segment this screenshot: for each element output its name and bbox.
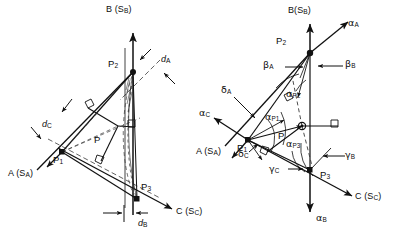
right-vertex-p3 (307, 167, 313, 173)
right-axis-c-label: C (SC) (355, 192, 381, 201)
left-side-p1-p3 (62, 152, 137, 199)
left-axis-c (58, 148, 172, 209)
left-axis-c-label: C (SC) (176, 207, 202, 216)
right-point-p3-label: P3 (320, 170, 330, 180)
left-distance-dc-label: dC (42, 120, 52, 129)
left-da-arrow-2 (164, 73, 175, 84)
left-point-p3-label: P3 (141, 182, 151, 192)
left-vertex-p3 (134, 196, 140, 202)
right-panel-geometry (214, 22, 352, 212)
right-axis-a-label: A (SA) (196, 147, 221, 156)
left-panel-geometry (31, 33, 175, 222)
left-right-angle-c (95, 155, 104, 164)
left-dc-arrow-1 (62, 99, 72, 112)
left-vertex-p1 (59, 149, 65, 155)
right-dashed-p-p2 (292, 76, 302, 126)
left-dc-arrow-2 (31, 127, 41, 139)
right-ray-alpha-c (214, 118, 248, 140)
right-angle-beta-b-label: βB (345, 59, 356, 69)
right-ray-alpha-a (310, 22, 348, 53)
left-point-p-label: P (94, 135, 100, 145)
left-dashed-ray-3 (62, 126, 118, 152)
left-vertex-p2 (130, 69, 136, 75)
left-right-angle-b (128, 120, 135, 127)
right-vertex-p2 (307, 50, 313, 56)
left-right-angle-a (85, 99, 94, 108)
right-angle-alpha-p2-label: αP2 (286, 89, 300, 99)
right-delta-a-leader (234, 97, 255, 118)
right-axis-b-label: B(SB) (288, 6, 311, 15)
right-point-p2-label: P2 (276, 36, 286, 46)
right-vertex-p-core (301, 125, 304, 128)
right-angle-gamma-c-label: γC (269, 164, 279, 174)
left-distance-da-label: dA (161, 55, 171, 64)
left-point-p1-label: P1 (53, 155, 63, 165)
right-angle-beta-a-label: βA (263, 60, 274, 70)
right-angle-alpha-p1-label: αP1 (265, 112, 279, 122)
right-angle-delta-c-label: δC (238, 149, 249, 159)
left-axis-a-label: A (SA) (8, 169, 33, 178)
right-angle-delta-a-label: δA (221, 85, 231, 95)
right-point-p-label: P (278, 131, 284, 141)
left-point-p2-label: P2 (108, 59, 118, 69)
right-angle-alpha-a-label: αA (348, 18, 359, 28)
right-angle-gamma-b-label: γB (345, 150, 355, 160)
figure-root: B (SB) A (SA) C (SC) P1 P2 P3 P dA dB dC… (0, 0, 395, 244)
right-angle-alpha-p3-label: αP3 (286, 139, 300, 149)
right-angle-alpha-b-label: αB (316, 213, 327, 223)
left-da-arrow-1 (140, 49, 151, 60)
right-p3-ray (310, 148, 331, 170)
left-distance-db-label: dB (138, 219, 148, 228)
left-axis-b-label: B (SB) (106, 5, 132, 14)
right-angle-alpha-c-label: αC (199, 108, 210, 118)
right-vertex-p1 (245, 137, 251, 143)
